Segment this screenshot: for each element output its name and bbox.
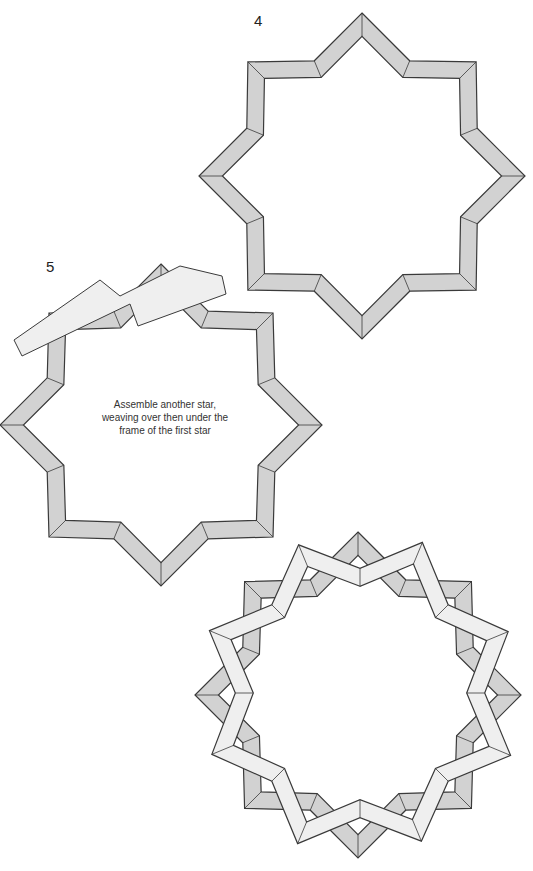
origami-diagram [0, 0, 533, 871]
caption-line-3: frame of the first star [85, 424, 245, 437]
step5-instruction: Assemble another star, weaving over then… [85, 398, 245, 437]
step-number-5: 5 [46, 258, 54, 275]
step-number-4: 4 [254, 12, 262, 29]
caption-line-2: weaving over then under the [85, 411, 245, 424]
caption-line-1: Assemble another star, [85, 398, 245, 411]
